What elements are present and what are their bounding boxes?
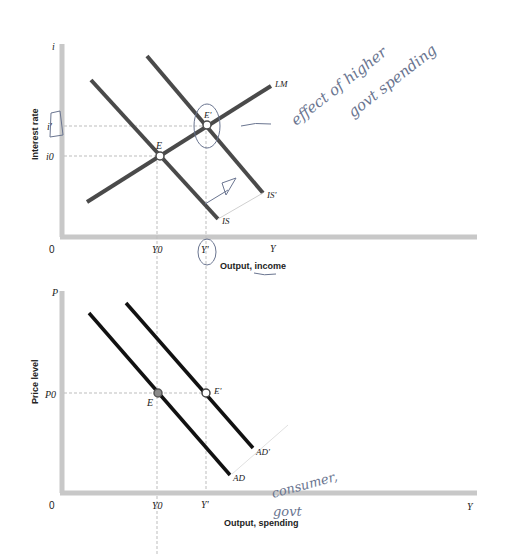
ad-label: AD (232, 473, 245, 483)
point-e-bottom (154, 389, 162, 397)
bottom-x-symbol: Y (467, 501, 474, 512)
point-e-prime-top (203, 121, 211, 129)
point-e-label-bottom: E (146, 397, 153, 408)
bottom-y-label: Price level (30, 359, 40, 404)
bottom-panel: P Price level P0 0 Y0 Y' Y Output, spend… (30, 287, 477, 528)
top-y-symbol: i (52, 41, 55, 52)
lm-label: LM (274, 79, 288, 89)
tick-y0-top: Y0 (152, 244, 163, 255)
bottom-origin: 0 (49, 500, 55, 511)
ad-prime-label: AD' (255, 447, 271, 457)
is-lm-ad-diagram: i Interest rate i' i0 0 Y0 Y' Y Output, … (0, 0, 505, 555)
handwritten-marks-top (50, 104, 276, 275)
point-e-label-top: E (155, 140, 162, 151)
arrow-sketch (205, 178, 236, 204)
tick-y-prime-bottom: Y' (201, 499, 210, 510)
top-y-label: Interest rate (30, 108, 40, 160)
is-prime-label: IS' (266, 190, 277, 200)
bottom-y-symbol: P (51, 287, 58, 298)
point-e-prime-label-bottom: E' (213, 386, 222, 396)
tick-i0: i0 (46, 151, 54, 162)
top-x-symbol: Y (270, 243, 277, 254)
top-origin: 0 (49, 244, 55, 255)
is-label: IS (221, 216, 230, 226)
tick-p0: P0 (44, 389, 56, 400)
annotation-consumer: consumer, (270, 469, 339, 501)
top-x-label: Output, income (220, 261, 286, 271)
is-curve (91, 80, 218, 219)
top-panel: i Interest rate i' i0 0 Y0 Y' Y Output, … (30, 41, 477, 555)
point-e-prime-label-top: E' (203, 110, 212, 120)
point-e-top (156, 152, 164, 160)
point-e-prime-bottom (202, 389, 210, 397)
bottom-x-label: Output, spending (224, 518, 299, 528)
annotation-govt: govt (273, 504, 302, 519)
underline-income (254, 273, 276, 275)
tick-y0-bottom: Y0 (152, 500, 163, 511)
dash-mark (241, 123, 271, 126)
tick-y-prime-top: Y' (201, 244, 210, 255)
